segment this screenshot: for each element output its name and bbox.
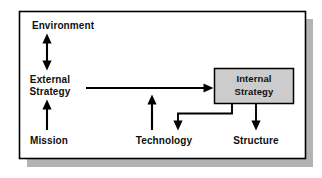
node-label-mission: Mission: [30, 135, 68, 146]
node-label-external-strategy-line1: External: [30, 74, 70, 85]
diagram-canvas: Environment External Strategy Mission Te…: [0, 0, 322, 178]
node-label-internal-strategy-line1: Internal: [236, 73, 271, 84]
node-label-internal-strategy-line2: Strategy: [235, 86, 274, 97]
diagram-root: Environment External Strategy Mission Te…: [0, 0, 322, 178]
node-label-environment: Environment: [32, 20, 95, 31]
node-label-technology: Technology: [136, 135, 193, 146]
node-label-external-strategy-line2: Strategy: [30, 86, 71, 97]
node-label-structure: Structure: [233, 135, 279, 146]
